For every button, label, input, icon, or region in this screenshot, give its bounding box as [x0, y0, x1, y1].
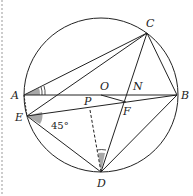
segment-cb	[147, 33, 177, 95]
label-o: O	[100, 80, 109, 93]
label-d: D	[96, 177, 106, 190]
angle-45-label: 45°	[51, 120, 69, 131]
segment-pd-dashed	[90, 110, 101, 172]
label-f: F	[122, 105, 131, 118]
geometry-diagram: C A B O N P F E D 45°	[0, 0, 193, 196]
label-p: P	[83, 95, 92, 108]
segment-db	[101, 95, 177, 172]
label-e: E	[14, 111, 23, 124]
angle-a-arc-outer	[44, 86, 45, 95]
label-b: B	[180, 89, 189, 102]
segment-eb	[27, 95, 177, 116]
label-c: C	[146, 17, 155, 30]
label-n: N	[132, 80, 143, 93]
segment-of	[101, 95, 126, 102]
angle-a-arc-inner	[41, 87, 42, 95]
segment-ac	[24, 33, 147, 95]
label-a: A	[10, 89, 19, 102]
